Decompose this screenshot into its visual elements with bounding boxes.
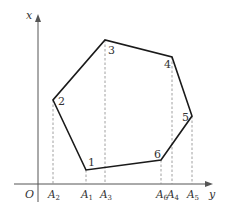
vertex-label-5: 5 — [182, 111, 189, 124]
vertical-axis-arrow-icon — [35, 14, 41, 22]
origin-label: O — [25, 188, 34, 201]
projection-label-a2: A2 — [47, 188, 60, 202]
vertical-axis-label: x — [26, 9, 33, 22]
vertex-label-6: 6 — [154, 148, 161, 161]
vertex-label-1: 1 — [88, 156, 95, 169]
vertex-labels: 1 2 3 4 5 6 — [58, 44, 189, 169]
projection-label-a4: A4 — [166, 188, 180, 202]
projection-labels: A2 A1 A3 A6 A4 A5 — [47, 188, 199, 202]
projection-label-a5: A5 — [186, 188, 199, 202]
vertex-label-3: 3 — [108, 44, 115, 57]
projection-lines — [53, 40, 192, 184]
horizontal-axis-arrow-icon — [205, 181, 213, 187]
projection-label-a3: A3 — [99, 188, 112, 202]
horizontal-axis-label: y — [208, 188, 216, 201]
vertex-label-2: 2 — [58, 95, 65, 108]
vertex-label-4: 4 — [164, 58, 171, 71]
diagram-canvas: 1 2 3 4 5 6 x y O A2 A1 A3 A6 A4 A5 — [0, 0, 231, 212]
projection-label-a1: A1 — [80, 188, 93, 202]
hexagon-polygon — [53, 40, 192, 170]
